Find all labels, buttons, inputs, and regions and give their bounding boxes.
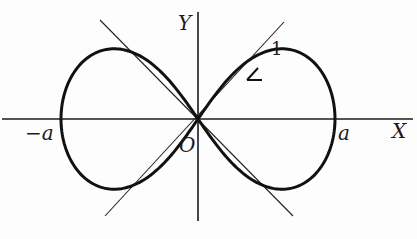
diagram-svg: Y X 1 −a a O [0,0,417,239]
direction-arrow-icon [247,68,262,80]
branch-label: 1 [271,38,282,59]
lemniscate-diagram: Y X 1 −a a O [0,0,417,239]
pos-a-label: a [338,121,350,145]
y-axis-label: Y [178,11,193,35]
origin-label: O [179,133,195,157]
x-axis-label: X [390,119,407,143]
neg-a-label: −a [25,121,54,145]
